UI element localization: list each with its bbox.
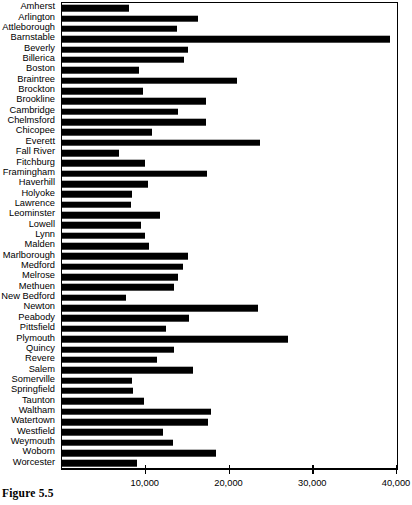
category-label: Watertown (11, 417, 55, 426)
x-axis-tick-label: 30,000 (298, 478, 326, 488)
bar-row (62, 365, 397, 375)
category-label: Melrose (22, 272, 55, 281)
bar-row (62, 55, 397, 65)
bar (62, 429, 163, 436)
bar-row (62, 251, 397, 261)
bar-row (62, 3, 397, 13)
bar-row (62, 127, 397, 137)
bar (62, 119, 206, 126)
category-label: Woborn (23, 448, 55, 457)
category-label: Taunton (22, 396, 55, 405)
category-label: Everett (26, 137, 55, 146)
bar (62, 67, 139, 74)
bar-row (62, 75, 397, 85)
category-label: Salem (29, 365, 55, 374)
bar (62, 77, 237, 84)
bar (62, 170, 207, 177)
category-label: Malden (25, 241, 56, 250)
bar-row (62, 169, 397, 179)
category-label: Weymouth (11, 437, 55, 446)
bar-row (62, 313, 397, 323)
category-label: Peabody (18, 313, 55, 322)
bar (62, 377, 132, 384)
bar (62, 357, 157, 364)
bar-row (62, 417, 397, 427)
category-label: Brockton (18, 85, 55, 94)
category-label: Leominster (9, 210, 55, 219)
x-axis-tick-label: 40,000 (382, 478, 410, 488)
bar-row (62, 334, 397, 344)
bar (62, 388, 133, 395)
bar-chart: AmherstArlingtonAttleboroughBarnstableBe… (0, 2, 412, 476)
bar (62, 129, 152, 136)
bar (62, 346, 174, 353)
bar (62, 26, 177, 33)
category-label: Waltham (19, 406, 55, 415)
bar (62, 419, 208, 426)
x-axis-tick (145, 465, 146, 474)
bar (62, 108, 178, 115)
bar (62, 295, 126, 302)
category-label: Chicopee (16, 127, 55, 136)
bar-row (62, 34, 397, 44)
bar-row (62, 386, 397, 396)
bar-row (62, 158, 397, 168)
bar (62, 398, 144, 405)
bar (62, 98, 206, 105)
bar (62, 253, 188, 260)
bar-row (62, 24, 397, 34)
category-label: Holyoke (21, 189, 55, 198)
category-label: Fall River (16, 147, 55, 156)
category-label: Attleborough (2, 23, 55, 32)
category-label: Barnstable (11, 34, 55, 43)
category-label: Billerica (22, 54, 55, 63)
category-label: Lawrence (15, 199, 55, 208)
category-label: Methuen (19, 282, 55, 291)
category-label: Cambridge (10, 106, 55, 115)
bar (62, 336, 288, 343)
category-label: Plymouth (16, 334, 55, 343)
bar (62, 15, 198, 22)
bar (62, 408, 211, 415)
category-label: Boston (26, 65, 55, 74)
bar-row (62, 137, 397, 147)
category-label: Amherst (20, 3, 55, 12)
category-label: Beverly (24, 44, 55, 53)
category-label: Braintree (17, 75, 55, 84)
bar (62, 274, 178, 281)
bar-row (62, 117, 397, 127)
bar (62, 5, 129, 12)
bar (62, 139, 260, 146)
bar-row (62, 13, 397, 23)
category-label: Haverhill (19, 179, 55, 188)
bar-row (62, 375, 397, 385)
bar-row (62, 293, 397, 303)
bar (62, 88, 143, 95)
bar-row (62, 324, 397, 334)
figure-5-5: AmherstArlingtonAttleboroughBarnstableBe… (0, 0, 412, 505)
bar-row (62, 65, 397, 75)
bar (62, 232, 145, 239)
bar-row (62, 179, 397, 189)
bar-row (62, 44, 397, 54)
bar (62, 191, 132, 198)
bar-row (62, 272, 397, 282)
category-label: Chelmsford (7, 116, 55, 125)
bar (62, 181, 148, 188)
category-label: Fitchburg (16, 158, 55, 167)
bar (62, 305, 258, 312)
category-label: Marlborough (3, 251, 55, 260)
bar (62, 243, 149, 250)
bar (62, 46, 188, 53)
bar-row (62, 200, 397, 210)
bar (62, 367, 193, 374)
bar-row (62, 86, 397, 96)
plot-area (61, 2, 398, 468)
category-label: Lowell (29, 220, 55, 229)
bar-rows (62, 3, 397, 468)
figure-caption: Figure 5.5 (2, 487, 54, 499)
bar-row (62, 231, 397, 241)
category-axis-labels: AmherstArlingtonAttleboroughBarnstableBe… (0, 2, 60, 468)
bar-row (62, 406, 397, 416)
bar (62, 222, 141, 229)
